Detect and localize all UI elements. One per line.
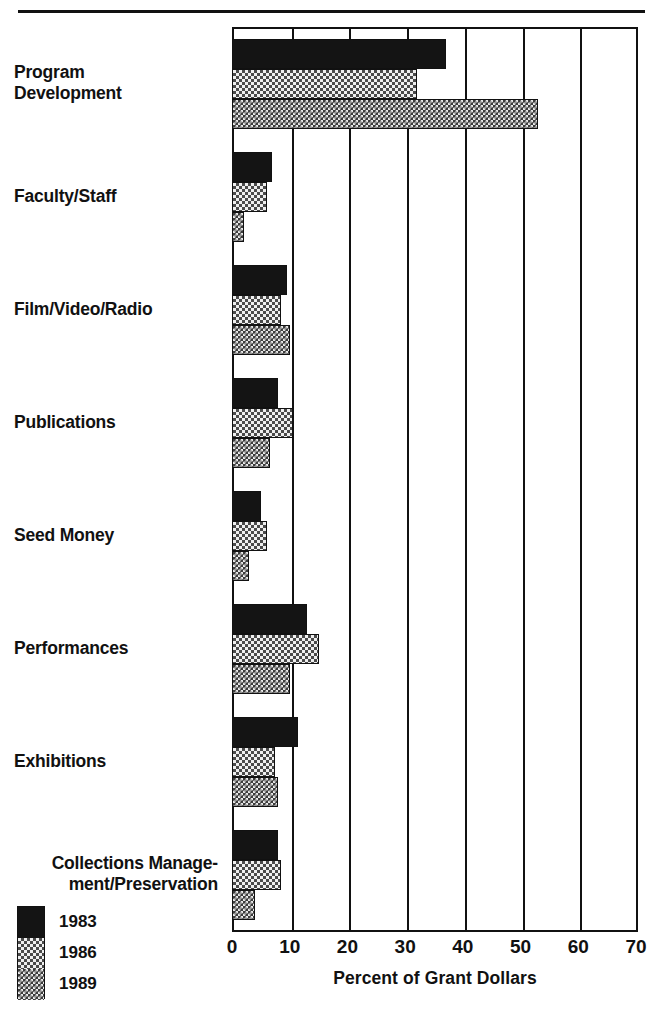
category-label: Film/Video/Radio <box>14 299 218 320</box>
category-label-line1: Seed Money <box>14 525 114 545</box>
bar-group <box>232 265 638 355</box>
bar-1983 <box>232 378 278 408</box>
bar-1983 <box>232 604 307 634</box>
category-label-line1: Performances <box>14 638 128 658</box>
category-label: Performances <box>14 638 218 659</box>
legend-label-1983: 1983 <box>59 906 97 937</box>
bar-group <box>232 378 638 468</box>
category-label-line2: Development <box>14 83 218 104</box>
category-label: Faculty/Staff <box>14 186 218 207</box>
category-label-line1: Program <box>14 62 85 82</box>
bar-1989 <box>232 551 249 581</box>
bar-1986 <box>232 747 275 777</box>
x-tick-20: 20 <box>337 936 358 958</box>
legend-swatch-1986 <box>18 938 44 969</box>
legend-label-1986: 1986 <box>59 937 97 968</box>
legend-label-1989: 1989 <box>59 968 97 999</box>
bar-1983 <box>232 39 446 69</box>
bar-group <box>232 152 638 242</box>
bar-1983 <box>232 265 287 295</box>
category-label-line1: Collections Manage- <box>14 853 218 874</box>
bar-1989 <box>232 664 290 694</box>
bar-1989 <box>232 325 290 355</box>
bar-group <box>232 830 638 920</box>
x-tick-10: 10 <box>279 936 300 958</box>
legend-swatch-1983 <box>18 907 44 938</box>
bar-group <box>232 604 638 694</box>
bar-group <box>232 717 638 807</box>
x-axis-title: Percent of Grant Dollars <box>232 968 638 989</box>
bar-1986 <box>232 295 281 325</box>
bar-1983 <box>232 491 261 521</box>
bar-1983 <box>232 830 278 860</box>
category-label: Collections Manage-ment/Preservation <box>14 853 218 895</box>
x-tick-40: 40 <box>452 936 473 958</box>
category-label: Seed Money <box>14 525 218 546</box>
x-tick-50: 50 <box>510 936 531 958</box>
category-label-line2: ment/Preservation <box>14 874 218 895</box>
bar-1986 <box>232 69 417 99</box>
bar-1986 <box>232 860 281 890</box>
bar-1986 <box>232 182 267 212</box>
bar-1986 <box>232 521 267 551</box>
x-axis-tick-labels: 010203040506070 <box>232 936 638 962</box>
category-label-line1: Publications <box>14 412 116 432</box>
bar-1989 <box>232 212 244 242</box>
bar-group <box>232 39 638 129</box>
category-label: Exhibitions <box>14 751 218 772</box>
category-label: ProgramDevelopment <box>14 62 218 104</box>
bar-1989 <box>232 777 278 807</box>
category-label: Publications <box>14 412 218 433</box>
bar-1989 <box>232 99 538 129</box>
x-tick-0: 0 <box>227 936 238 958</box>
top-horizontal-rule <box>18 10 645 13</box>
category-label-line1: Exhibitions <box>14 751 106 771</box>
chart-bars-layer <box>232 27 638 932</box>
bar-group <box>232 491 638 581</box>
category-label-line1: Film/Video/Radio <box>14 299 152 319</box>
bar-1986 <box>232 408 293 438</box>
bar-1983 <box>232 152 272 182</box>
legend-swatch-1989 <box>18 969 44 1000</box>
legend-swatch-stack <box>17 906 45 999</box>
x-tick-60: 60 <box>568 936 589 958</box>
category-axis-labels: ProgramDevelopmentFaculty/StaffFilm/Vide… <box>0 27 226 932</box>
x-tick-70: 70 <box>625 936 646 958</box>
bar-1989 <box>232 438 270 468</box>
bar-1983 <box>232 717 298 747</box>
bar-1986 <box>232 634 319 664</box>
bar-1989 <box>232 890 255 920</box>
x-tick-30: 30 <box>395 936 416 958</box>
category-label-line1: Faculty/Staff <box>14 186 116 206</box>
